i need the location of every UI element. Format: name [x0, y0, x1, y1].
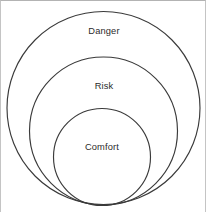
- diagram-figure-frame: Danger Risk Comfort: [0, 0, 206, 212]
- comfort-label: Comfort: [85, 142, 119, 152]
- nested-circles-diagram: Danger Risk Comfort: [1, 1, 206, 212]
- risk-label: Risk: [95, 81, 114, 91]
- comfort-circle: [54, 109, 151, 206]
- risk-circle: [30, 57, 178, 205]
- danger-label: Danger: [88, 26, 119, 36]
